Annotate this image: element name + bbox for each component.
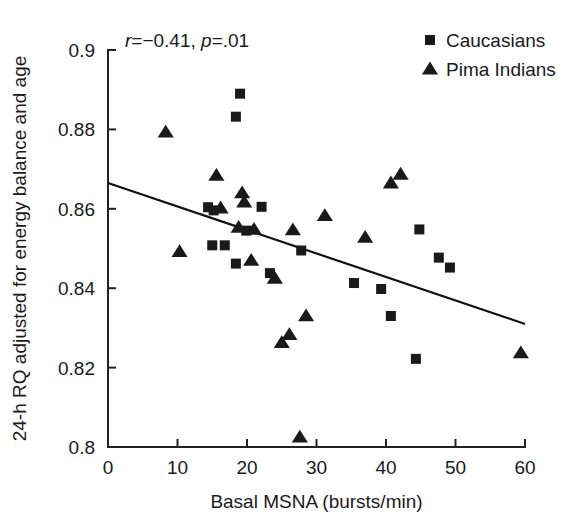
y-tick-label-0.8: 0.8 bbox=[69, 437, 95, 458]
legend-marker-pima-indians bbox=[422, 62, 438, 75]
data-point-caucasians-5 bbox=[207, 240, 217, 250]
x-axis-title: Basal MSNA (bursts/min) bbox=[210, 491, 422, 512]
data-point-caucasians-11 bbox=[376, 284, 386, 294]
data-point-pima-indians-16 bbox=[357, 230, 373, 243]
data-point-caucasians-4 bbox=[257, 202, 267, 212]
data-point-pima-indians-15 bbox=[317, 208, 333, 221]
data-point-caucasians-12 bbox=[386, 311, 396, 321]
x-tick-label-40: 40 bbox=[375, 457, 396, 478]
data-point-pima-indians-14 bbox=[292, 430, 308, 443]
x-tick-label-10: 10 bbox=[167, 457, 188, 478]
correlation-annotation: r=−0.41, p=.01 bbox=[125, 30, 249, 51]
data-point-caucasians-13 bbox=[411, 354, 421, 364]
data-point-pima-indians-13 bbox=[298, 309, 314, 322]
data-point-caucasians-7 bbox=[231, 259, 241, 269]
y-tick-label-0.86: 0.86 bbox=[58, 199, 95, 220]
legend-label-pima-indians: Pima Indians bbox=[446, 59, 556, 80]
data-point-caucasians-1 bbox=[231, 112, 241, 122]
y-tick-label-0.9: 0.9 bbox=[69, 40, 95, 61]
correlation-annotation-text: r=−0.41, p=.01 bbox=[125, 30, 249, 51]
legend-label-caucasians: Caucasians bbox=[446, 30, 545, 51]
data-point-pima-indians-1 bbox=[172, 244, 188, 257]
y-tick-label-0.82: 0.82 bbox=[58, 358, 95, 379]
data-point-pima-indians-18 bbox=[393, 167, 409, 180]
plot-canvas: 01020304050600.80.820.840.860.880.9Basal… bbox=[0, 0, 570, 523]
data-point-caucasians-16 bbox=[445, 263, 455, 273]
x-tick-label-20: 20 bbox=[236, 457, 257, 478]
annotation-p-value: =.01 bbox=[212, 30, 250, 51]
data-point-caucasians-10 bbox=[349, 278, 359, 288]
scatter-plot-figure: 01020304050600.80.820.840.860.880.9Basal… bbox=[0, 0, 570, 523]
series-pima-indians bbox=[158, 125, 529, 443]
legend-marker-caucasians bbox=[425, 35, 435, 45]
x-tick-label-30: 30 bbox=[306, 457, 327, 478]
y-tick-label-0.84: 0.84 bbox=[58, 278, 95, 299]
data-point-pima-indians-0 bbox=[158, 125, 174, 138]
trend-line bbox=[108, 183, 525, 324]
data-point-pima-indians-4 bbox=[234, 186, 250, 199]
data-point-caucasians-9 bbox=[296, 245, 306, 255]
annotation-r-value: =−0.41, bbox=[131, 30, 201, 51]
data-point-pima-indians-11 bbox=[281, 327, 297, 340]
data-point-caucasians-14 bbox=[414, 224, 424, 234]
x-tick-label-50: 50 bbox=[445, 457, 466, 478]
data-point-caucasians-0 bbox=[235, 89, 245, 99]
x-tick-label-60: 60 bbox=[514, 457, 535, 478]
data-point-pima-indians-12 bbox=[285, 222, 301, 235]
y-tick-label-0.88: 0.88 bbox=[58, 119, 95, 140]
data-point-pima-indians-19 bbox=[513, 345, 529, 358]
data-point-pima-indians-2 bbox=[208, 168, 224, 181]
annotation-p-symbol: p bbox=[200, 30, 212, 51]
y-axis-title: 24-h RQ adjusted for energy balance and … bbox=[9, 56, 30, 442]
data-point-caucasians-15 bbox=[434, 253, 444, 263]
x-tick-label-0: 0 bbox=[103, 457, 114, 478]
data-point-pima-indians-7 bbox=[243, 253, 259, 266]
data-point-caucasians-6 bbox=[220, 240, 230, 250]
